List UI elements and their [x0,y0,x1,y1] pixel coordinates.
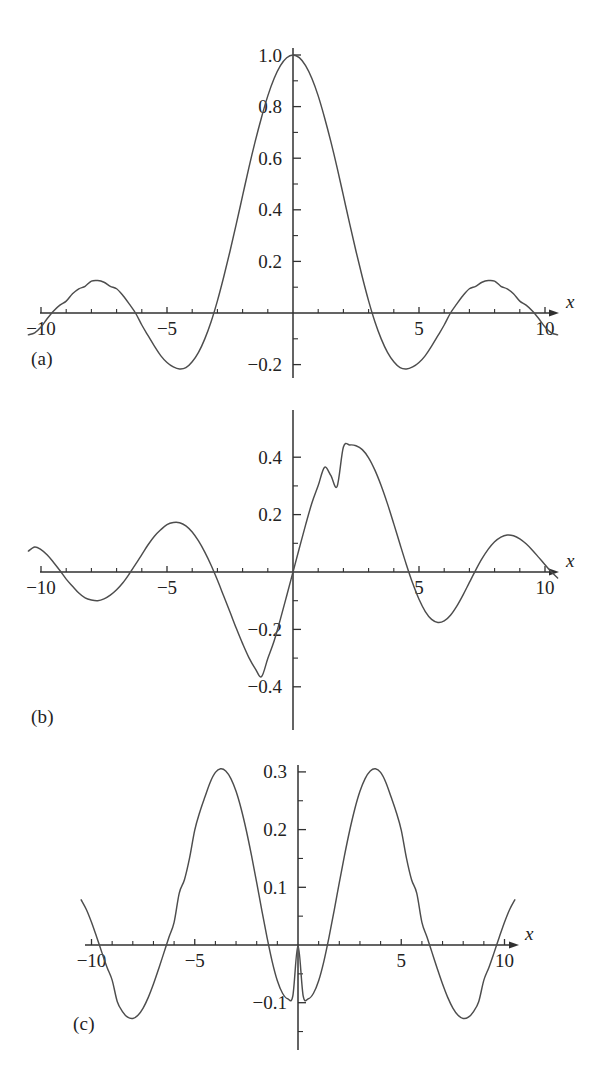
x-axis-tick-label: 5 [414,318,424,339]
x-axis-tick-label: 10 [495,950,514,971]
y-axis-tick-label: 0.4 [258,447,282,468]
y-axis-tick-label: 0.4 [258,199,282,220]
chart-panel-a: −10−55100.20.40.60.81.0−0.2x [0,0,601,380]
y-axis-tick-label: −0.2 [248,354,282,375]
y-axis-tick-label: 0.1 [263,877,287,898]
x-axis-tick-label: 5 [414,577,424,598]
x-axis-tick-label: 10 [536,318,555,339]
panel-label-b: (b) [31,706,54,728]
bessel-functions-figure: −10−55100.20.40.60.81.0−0.2x (a) −10−551… [0,0,601,1076]
x-axis-tick-label: −5 [157,577,177,598]
x-axis-arrow [509,942,519,949]
panel-label-a: (a) [31,348,53,370]
chart-panel-b: −10−55100.20.4−0.2−0.4x [0,380,601,750]
plot-b-canvas: −10−55100.20.4−0.2−0.4x [0,380,601,750]
y-axis-tick-label: 0.2 [258,251,282,272]
y-axis-tick-label: 0.3 [263,761,287,782]
x-axis-arrow [549,310,559,317]
x-axis-tick-label: −5 [157,318,177,339]
y-axis-tick-label: 1.0 [258,45,282,66]
x-axis-label: x [524,923,534,944]
x-axis-tick-label: −5 [185,950,205,971]
y-axis-tick-label: 0.2 [258,504,282,525]
panel-label-c: (c) [73,1013,95,1035]
y-axis-tick-label: 0.6 [258,148,282,169]
x-axis-label: x [565,291,575,312]
x-axis-tick-label: 5 [397,950,407,971]
y-axis-tick-label: 0.2 [263,819,287,840]
x-axis-label: x [565,550,575,571]
x-axis-tick-label: 10 [536,577,555,598]
x-axis-tick-label: −10 [26,577,56,598]
x-axis-tick-label: −10 [26,318,56,339]
plot-a-canvas: −10−55100.20.40.60.81.0−0.2x [0,0,601,380]
y-axis-tick-label: −0.4 [248,676,283,697]
y-axis-tick-label: −0.1 [253,992,287,1013]
